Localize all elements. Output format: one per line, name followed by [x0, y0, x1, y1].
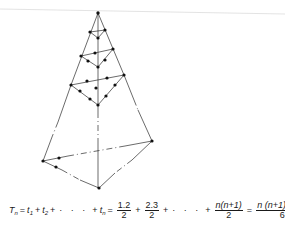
tetrahedral-pyramid-diagram — [0, 0, 285, 232]
term-tn: tn — [100, 205, 106, 216]
plus-sign: + — [92, 205, 97, 215]
fraction-2: 2.32 — [145, 201, 160, 220]
dash-dot-segments — [52, 100, 138, 180]
formula-lhs: Tn — [9, 205, 18, 216]
equals-sign: = — [247, 205, 252, 215]
ellipsis: · · · — [59, 205, 88, 215]
term-t2: t2 — [42, 205, 48, 216]
fraction-closed-form: n (n+1)(n+2)6 — [256, 201, 285, 220]
ellipsis: · · · — [172, 205, 201, 215]
fraction-general-term: n(n+1)2 — [215, 201, 243, 220]
tetrahedral-number-formula: Tn = t1 + t2 + · · · + tn = 1.22 + 2.32 … — [9, 199, 281, 221]
plus-sign: + — [205, 205, 210, 215]
equals-sign: = — [107, 205, 112, 215]
plus-sign: + — [35, 205, 40, 215]
equals-sign: = — [20, 205, 25, 215]
fraction-1: 1.22 — [117, 201, 132, 220]
plus-sign: + — [163, 205, 168, 215]
top-rule — [0, 9, 285, 14]
term-t1: t1 — [27, 205, 33, 216]
plus-sign: + — [50, 205, 55, 215]
pyramid-points — [41, 11, 153, 189]
plus-sign: + — [135, 205, 140, 215]
